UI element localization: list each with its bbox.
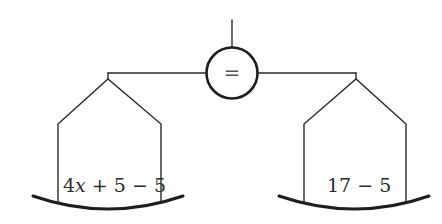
left-variable: x	[75, 174, 86, 196]
left-remainder: + 5 − 5	[86, 174, 166, 196]
right-pan-expression: 17 − 5	[327, 176, 391, 195]
balance-scale-diagram: = 4x + 5 − 5 17 − 5	[0, 0, 442, 224]
left-coefficient: 4	[63, 174, 75, 196]
left-pan-expression: 4x + 5 − 5	[63, 176, 166, 195]
equals-sign: =	[217, 62, 247, 82]
